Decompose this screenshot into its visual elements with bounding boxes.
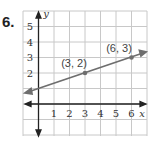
svg-text:4: 4: [97, 108, 103, 119]
svg-text:3: 3: [27, 52, 33, 63]
svg-text:3: 3: [82, 108, 88, 119]
x-tick-labels: 1 2 3 4 5 6 x: [51, 108, 145, 119]
y-axis: [36, 12, 41, 136]
point-label-3-2: (3, 2): [61, 57, 87, 69]
point-3-2: [83, 71, 88, 76]
svg-text:1: 1: [51, 108, 57, 119]
point-6-3: [129, 55, 134, 60]
y-axis-label: y: [42, 8, 49, 19]
svg-text:2: 2: [66, 108, 72, 119]
svg-text:2: 2: [27, 68, 33, 79]
x-axis-label: x: [139, 108, 145, 119]
svg-text:4: 4: [27, 37, 33, 48]
svg-text:6: 6: [128, 108, 134, 119]
coordinate-plane: 1 2 3 4 5 6 x 2 3 4 5 y (3, 2) (6, 3): [0, 0, 153, 156]
svg-text:5: 5: [113, 108, 119, 119]
point-label-6-3: (6, 3): [106, 42, 132, 54]
svg-text:5: 5: [27, 21, 33, 32]
